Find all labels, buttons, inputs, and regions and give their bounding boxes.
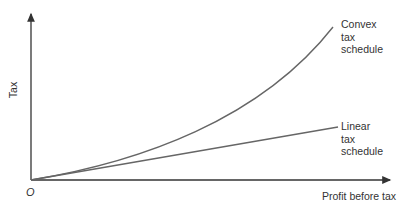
convex-label-line1: Convex [341,18,383,31]
origin-label: O [26,186,35,198]
linear-label-line2: tax [341,133,383,146]
convex-label: Convex tax schedule [341,18,383,56]
convex-label-line3: schedule [341,43,383,56]
linear-tax-line [31,127,338,180]
convex-label-line2: tax [341,31,383,44]
x-axis-label: Profit before tax [322,190,396,203]
linear-label: Linear tax schedule [341,120,383,158]
y-axis-label: Tax [7,82,19,98]
linear-label-line1: Linear [341,120,383,133]
convex-tax-curve [31,27,333,180]
linear-label-line3: schedule [341,145,383,158]
